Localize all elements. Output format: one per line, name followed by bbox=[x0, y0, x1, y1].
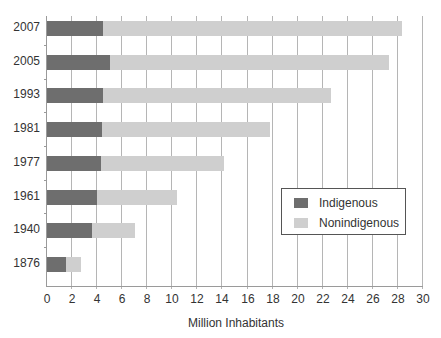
x-tick-label: 16 bbox=[236, 292, 260, 306]
bar-nonindigenous-1940 bbox=[92, 223, 135, 238]
y-tick-label: 1993 bbox=[2, 87, 40, 101]
indigenous-swatch-icon bbox=[294, 198, 308, 208]
y-tick-label: 1977 bbox=[2, 155, 40, 169]
x-tick-label: 28 bbox=[386, 292, 410, 306]
bar-indigenous-1876 bbox=[47, 257, 66, 272]
gridline bbox=[397, 16, 398, 289]
x-axis-title: Million Inhabitants bbox=[188, 316, 284, 330]
x-tick-label: 26 bbox=[361, 292, 385, 306]
bar-indigenous-1977 bbox=[47, 156, 101, 171]
x-axis-line bbox=[46, 286, 423, 287]
bar-indigenous-1993 bbox=[47, 88, 103, 103]
bar-indigenous-2007 bbox=[47, 21, 103, 36]
bar-nonindigenous-1993 bbox=[103, 88, 331, 103]
x-tick-label: 8 bbox=[135, 292, 159, 306]
x-tick-label: 0 bbox=[35, 292, 59, 306]
x-tick-label: 30 bbox=[411, 292, 435, 306]
x-tick-label: 2 bbox=[60, 292, 84, 306]
x-tick-label: 10 bbox=[160, 292, 184, 306]
x-tick-label: 20 bbox=[286, 292, 310, 306]
x-tick-label: 18 bbox=[261, 292, 285, 306]
y-tick-label: 1940 bbox=[2, 222, 40, 236]
x-tick-label: 12 bbox=[185, 292, 209, 306]
bar-nonindigenous-1977 bbox=[101, 156, 224, 171]
stacked-bar-chart: 20072005199319811977196119401876 0246810… bbox=[0, 0, 441, 338]
bar-indigenous-2005 bbox=[47, 55, 110, 70]
y-tick-label: 1961 bbox=[2, 189, 40, 203]
x-tick-label: 22 bbox=[311, 292, 335, 306]
gridline bbox=[422, 16, 423, 289]
bar-nonindigenous-1961 bbox=[97, 190, 177, 205]
bar-indigenous-1940 bbox=[47, 223, 92, 238]
nonindigenous-swatch-icon bbox=[294, 218, 308, 228]
bar-nonindigenous-2005 bbox=[110, 55, 389, 70]
legend-item-nonindigenous: Nonindigenous bbox=[294, 215, 399, 231]
legend-item-indigenous: Indigenous bbox=[294, 195, 378, 211]
bar-nonindigenous-2007 bbox=[103, 21, 401, 36]
legend-label: Indigenous bbox=[319, 196, 378, 210]
bar-nonindigenous-1876 bbox=[66, 257, 81, 272]
legend-label: Nonindigenous bbox=[319, 216, 399, 230]
legend: Indigenous Nonindigenous bbox=[281, 188, 406, 235]
y-tick-label: 1981 bbox=[2, 121, 40, 135]
bar-nonindigenous-1981 bbox=[102, 122, 270, 137]
x-tick-label: 4 bbox=[85, 292, 109, 306]
y-tick-label: 1876 bbox=[2, 256, 40, 270]
x-tick-label: 14 bbox=[210, 292, 234, 306]
y-axis-line bbox=[46, 16, 47, 286]
bar-indigenous-1961 bbox=[47, 190, 97, 205]
x-tick-label: 6 bbox=[110, 292, 134, 306]
y-tick-label: 2007 bbox=[2, 20, 40, 34]
y-tick-label: 2005 bbox=[2, 54, 40, 68]
bar-indigenous-1981 bbox=[47, 122, 102, 137]
x-tick-label: 24 bbox=[336, 292, 360, 306]
